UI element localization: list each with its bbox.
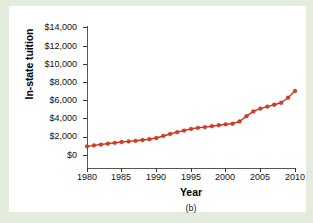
data-point [245,114,249,118]
data-point [293,89,297,93]
data-point [168,132,172,136]
data-point [224,122,228,126]
x-axis-title: Year [87,186,295,198]
data-point [175,130,179,134]
figure-container: In-state tuition $14,000 $12,000 $10,000… [0,0,313,223]
x-tick-label: 1985 [101,172,141,182]
data-point [189,127,193,131]
data-point [99,143,103,147]
tuition-data-markers [85,89,297,148]
data-point [279,101,283,105]
data-point [231,122,235,126]
data-point [106,142,110,146]
data-point [120,140,124,144]
data-point [113,141,117,145]
data-point [182,129,186,133]
x-tick-label: 2005 [240,172,280,182]
data-point [210,124,214,128]
data-point [161,134,165,138]
data-point [141,138,145,142]
tuition-line-series [87,91,295,146]
data-point [252,110,256,114]
x-tick-label: 2000 [205,172,245,182]
data-point [265,105,269,109]
data-point [85,144,89,148]
data-point [127,140,131,144]
data-point [92,143,96,147]
data-point [238,120,242,124]
data-point [217,123,221,127]
chart-panel: In-state tuition $14,000 $12,000 $10,000… [9,6,306,212]
panel-caption: (b) [87,203,295,213]
data-point [154,136,158,140]
data-point [272,103,276,107]
x-tick-label: 2010 [275,172,313,182]
data-point [286,96,290,100]
data-point [196,126,200,130]
x-tick-label: 1990 [136,172,176,182]
data-point [148,137,152,141]
data-point [258,107,262,111]
data-point [134,139,138,143]
data-point [203,125,207,129]
